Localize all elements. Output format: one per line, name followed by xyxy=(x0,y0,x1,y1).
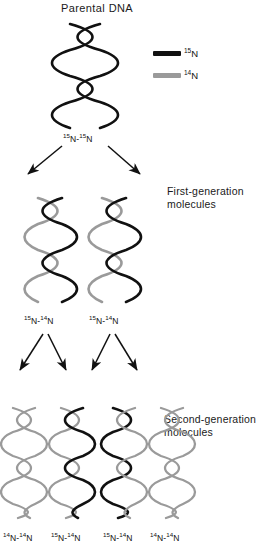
first-generation-caption-line1: First-generation xyxy=(167,185,244,198)
first-generation-helix-2 xyxy=(92,196,136,308)
arrow-gen2-1 xyxy=(20,334,43,370)
figure-canvas: Parental DNA 15N 14N 15N-15N xyxy=(0,0,256,552)
legend: 15N 14N xyxy=(153,48,198,81)
arrows-gen1-to-gen2 xyxy=(0,326,256,386)
helix-strand-back xyxy=(52,24,93,128)
first-generation-caption-line2: molecules xyxy=(167,198,244,211)
helix-strand-n15 xyxy=(107,198,142,302)
helix-svg-gen2-1 xyxy=(4,406,44,522)
gen2-genotype-label-1: 14N-14N xyxy=(3,533,33,543)
helix-strand-n14 xyxy=(49,408,79,518)
second-generation-helix-2 xyxy=(52,406,92,522)
page-title: Parental DNA xyxy=(61,2,133,14)
n14-swatch xyxy=(153,73,181,78)
gen2-1-mid: N- xyxy=(10,533,19,543)
gen1-1-mid: N- xyxy=(31,316,40,326)
gen2-1-end: N xyxy=(26,533,32,543)
helix-strand-n14-b xyxy=(17,408,47,518)
gen2-3-end: N xyxy=(126,533,132,543)
arrow-gen2-3 xyxy=(92,334,110,370)
gen2-3-mid: N- xyxy=(110,533,119,543)
legend-item-n15: 15N xyxy=(153,48,198,59)
arrow-gen2-4 xyxy=(115,334,137,370)
arrow-left-gen1 xyxy=(28,146,62,174)
helix-strand-n14 xyxy=(25,198,58,302)
second-generation-helix-3 xyxy=(104,406,144,522)
legend-item-n14: 14N xyxy=(153,70,198,81)
gen2-genotype-label-4: 14N-14N xyxy=(150,533,180,543)
gen2-2-mid: N- xyxy=(58,533,67,543)
helix-strand-n14-a xyxy=(149,408,179,518)
second-generation-helix-4 xyxy=(152,406,192,522)
second-generation-helix-1 xyxy=(4,406,44,522)
helix-svg-gen1-2 xyxy=(92,196,136,308)
legend-base-n14: N xyxy=(191,70,198,81)
arrow-right-gen1 xyxy=(108,146,140,174)
helix-svg-parental xyxy=(58,22,112,134)
arrows-parental-to-gen1 xyxy=(0,142,256,186)
first-generation-caption: First-generation molecules xyxy=(167,185,244,211)
helix-svg-gen2-4 xyxy=(152,406,192,522)
gen1-1-end: N xyxy=(47,316,53,326)
helix-strand-n14-a xyxy=(1,408,31,518)
legend-base-n15: N xyxy=(191,48,198,59)
helix-strand-n15 xyxy=(101,408,131,518)
gen2-2-end: N xyxy=(74,533,80,543)
gen2-4-mid: N- xyxy=(157,533,166,543)
gen2-4-end: N xyxy=(173,533,179,543)
legend-label-n14: 14N xyxy=(184,70,198,81)
helix-strand-front xyxy=(78,24,119,128)
helix-strand-n14 xyxy=(89,198,122,302)
gen1-genotype-label-2: 15N-14N xyxy=(89,316,119,326)
helix-strand-n15 xyxy=(65,408,95,518)
gen1-genotype-label-1: 15N-14N xyxy=(24,316,54,326)
first-generation-helix-1 xyxy=(28,196,72,308)
gen2-genotype-label-2: 15N-14N xyxy=(51,533,81,543)
n15-swatch xyxy=(153,51,181,56)
helix-strand-n14-b xyxy=(165,408,195,518)
helix-svg-gen2-3 xyxy=(104,406,144,522)
legend-label-n15: 15N xyxy=(184,48,198,59)
arrow-gen2-2 xyxy=(48,334,66,370)
helix-strand-n14 xyxy=(117,408,147,518)
helix-svg-gen2-2 xyxy=(52,406,92,522)
parental-dna-helix xyxy=(58,22,112,134)
helix-svg-gen1-1 xyxy=(28,196,72,308)
gen1-2-end: N xyxy=(112,316,118,326)
gen2-genotype-label-3: 15N-14N xyxy=(103,533,133,543)
gen1-2-mid: N- xyxy=(96,316,105,326)
helix-strand-n15 xyxy=(43,198,78,302)
